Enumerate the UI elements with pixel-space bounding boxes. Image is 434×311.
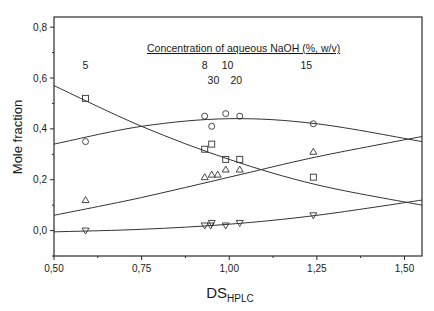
triangle-up-marker: [310, 148, 317, 154]
y-tick-label: 0,8: [33, 22, 47, 33]
x-axis: 0,500,751,001,251,50: [44, 256, 414, 274]
square-marker: [310, 174, 316, 180]
y-tick-label: 0,0: [33, 225, 47, 236]
circle-marker: [209, 123, 215, 129]
annotations: 5810153020: [83, 59, 313, 86]
triangle-up-marker: [82, 197, 89, 203]
chart: 0,00,20,40,60,8 0,500,751,001,251,50 581…: [0, 0, 434, 311]
x-tick-label: 0,75: [132, 263, 152, 274]
x-tick-label: 1,00: [220, 263, 240, 274]
naoh-concentration-label: 8: [202, 59, 208, 71]
triangle-up-fit-curve: [54, 137, 422, 216]
triangle-down-fit-curve: [54, 200, 422, 232]
circle-marker: [202, 113, 208, 119]
square-marker: [209, 141, 215, 147]
circle-marker: [223, 111, 229, 117]
x-tick-label: 1,25: [307, 263, 327, 274]
x-axis-label-main: DS: [206, 284, 227, 301]
triangle-up-marker: [222, 166, 229, 172]
fit-curves: [54, 86, 422, 232]
triangle-up-marker: [236, 166, 243, 172]
naoh-concentration-label: 30: [208, 74, 220, 86]
x-axis-label-subscript: HPLC: [227, 293, 254, 304]
square-fit-curve: [54, 86, 422, 206]
triangle-up-marker: [201, 174, 208, 180]
circle-marker: [83, 139, 89, 145]
naoh-concentration-label: 20: [230, 74, 242, 86]
x-axis-label: DSHPLC: [206, 284, 254, 304]
circle-fit-curve: [54, 119, 422, 144]
square-marker: [237, 156, 243, 162]
y-tick-label: 0,4: [33, 123, 47, 134]
y-tick-label: 0,6: [33, 73, 47, 84]
naoh-concentration-label: 5: [83, 59, 89, 71]
triangle-up-marker: [214, 171, 221, 177]
naoh-concentration-label: 15: [300, 59, 312, 71]
y-axis-label: Mole fraction: [10, 100, 25, 174]
naoh-concentration-label: 10: [222, 59, 234, 71]
annotation-title: Concentration of aqueous NaOH (%, w/v): [147, 42, 340, 54]
x-tick-label: 0,50: [44, 263, 64, 274]
x-tick-label: 1,50: [395, 263, 415, 274]
triangle-up-marker: [208, 171, 215, 177]
y-tick-label: 0,2: [33, 174, 47, 185]
y-axis: 0,00,20,40,60,8: [33, 22, 54, 256]
